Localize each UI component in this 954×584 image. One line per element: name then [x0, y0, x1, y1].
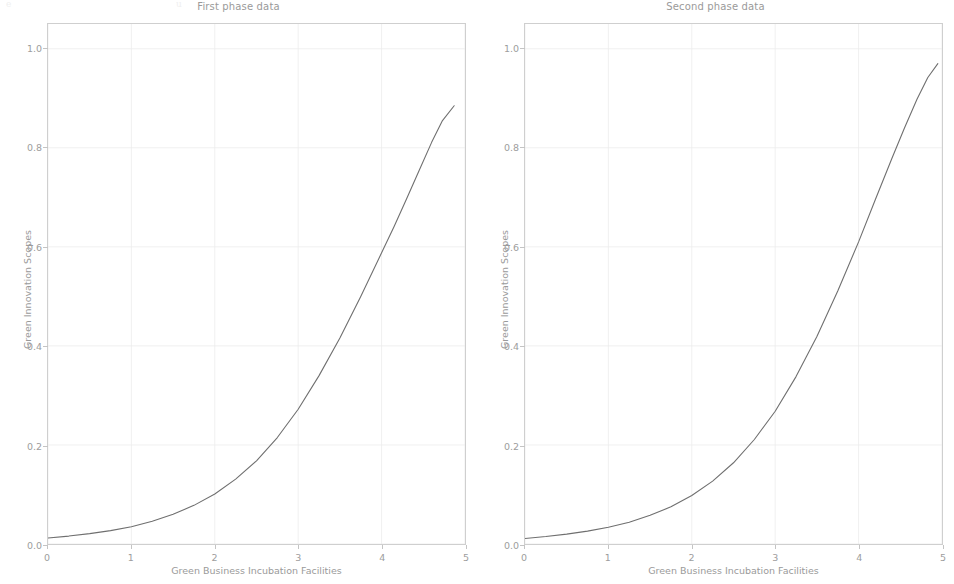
y-tick-mark [43, 48, 48, 49]
y-tick-label: 1.0 [20, 42, 42, 53]
data-line-second-phase [525, 64, 938, 539]
x-tick-label: 3 [295, 552, 301, 563]
x-tick-mark [382, 545, 383, 549]
x-tick-mark [131, 545, 132, 549]
x-tick-label: 5 [940, 552, 946, 563]
x-tick-mark [859, 545, 860, 549]
x-tick-label: 1 [605, 552, 611, 563]
y-tick-label: 0.2 [497, 440, 519, 451]
x-tick-mark [466, 545, 467, 549]
x-tick-mark [215, 545, 216, 549]
y-tick-label: 0.0 [20, 540, 42, 551]
y-tick-label: 0.4 [20, 341, 42, 352]
x-tick-mark [298, 545, 299, 549]
x-tick-label: 5 [463, 552, 469, 563]
x-tick-mark [943, 545, 944, 549]
y-tick-mark [520, 446, 525, 447]
y-tick-label: 0.6 [497, 241, 519, 252]
y-tick-label: 1.0 [497, 42, 519, 53]
x-tick-label: 0 [44, 552, 50, 563]
chart-title-first-phase: First phase data [0, 1, 477, 12]
x-tick-label: 2 [689, 552, 695, 563]
x-tick-mark [608, 545, 609, 549]
y-tick-mark [520, 48, 525, 49]
y-tick-mark [520, 346, 525, 347]
plot-svg-second-phase [525, 24, 942, 544]
x-tick-mark [692, 545, 693, 549]
x-axis-label-second-phase: Green Business Incubation Facilities [524, 565, 943, 576]
x-tick-label: 0 [521, 552, 527, 563]
x-tick-label: 1 [128, 552, 134, 563]
y-tick-label: 0.2 [20, 440, 42, 451]
y-tick-mark [520, 147, 525, 148]
plot-area-first-phase [47, 23, 466, 545]
y-tick-mark [43, 446, 48, 447]
x-tick-label: 4 [379, 552, 385, 563]
plot-svg-first-phase [48, 24, 465, 544]
x-tick-mark [47, 545, 48, 549]
y-tick-mark [43, 346, 48, 347]
y-tick-label: 0.0 [497, 540, 519, 551]
x-tick-mark [775, 545, 776, 549]
chart-panel-second-phase: Second phase data Green Innovation Scope… [477, 0, 954, 584]
data-line-first-phase [48, 106, 454, 538]
x-tick-label: 2 [212, 552, 218, 563]
y-tick-mark [43, 147, 48, 148]
x-tick-label: 3 [772, 552, 778, 563]
chart-panel-first-phase: First phase data Green Innovation Scopes… [0, 0, 477, 584]
x-axis-label-first-phase: Green Business Incubation Facilities [47, 565, 466, 576]
y-tick-mark [43, 247, 48, 248]
y-tick-label: 0.4 [497, 341, 519, 352]
x-tick-label: 4 [856, 552, 862, 563]
y-tick-mark [520, 247, 525, 248]
y-tick-label: 0.6 [20, 241, 42, 252]
x-tick-mark [524, 545, 525, 549]
chart-title-second-phase: Second phase data [477, 1, 954, 12]
y-tick-label: 0.8 [497, 142, 519, 153]
plot-area-second-phase [524, 23, 943, 545]
y-tick-label: 0.8 [20, 142, 42, 153]
figure-canvas: e u First phase data Green Innovation Sc… [0, 0, 954, 584]
